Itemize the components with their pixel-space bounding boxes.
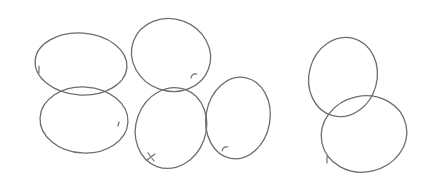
oval-group: [33, 7, 414, 180]
oval-top-left: [33, 30, 129, 98]
mark-curl: [222, 147, 228, 151]
oval-right-middle: [199, 72, 276, 164]
oval-right-bottom: [314, 88, 414, 180]
oval-bottom-middle: [124, 78, 218, 179]
oval-outline: [314, 88, 414, 180]
oval-outline: [199, 72, 276, 164]
sketch-canvas: [0, 0, 426, 186]
oval-right-top: [300, 30, 386, 125]
oval-outline: [33, 30, 129, 98]
mark-dot: [118, 122, 119, 126]
oval-outline: [124, 78, 218, 179]
mark-curl: [191, 74, 197, 78]
oval-outline: [300, 30, 386, 125]
mark-cross: [147, 153, 155, 161]
